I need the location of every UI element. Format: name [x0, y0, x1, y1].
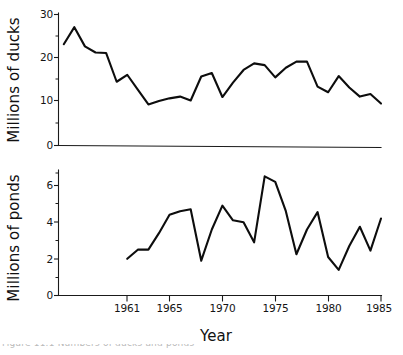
- duck-pond-figure: Millions of ducks 30 20 10 0: [0, 0, 403, 355]
- ponds-y-axis-title: Millions of ponds: [5, 174, 23, 301]
- ponds-ytick-6: 6: [47, 179, 54, 191]
- ducks-x-axis-spine: [59, 146, 382, 148]
- figure-container: Millions of ducks 30 20 10 0: [0, 0, 403, 355]
- ponds-y-tick-labels: 6 4 2 0: [47, 179, 54, 301]
- ducks-y-axis-title: Millions of ducks: [5, 17, 23, 143]
- xtick-1970: 1970: [210, 302, 236, 314]
- xtick-1975: 1975: [263, 302, 289, 314]
- ponds-y-ticks: [54, 173, 59, 296]
- ducks-y-ticks: [54, 15, 59, 146]
- ducks-y-tick-labels: 30 20 10 0: [40, 8, 53, 151]
- xtick-1985: 1985: [366, 302, 392, 314]
- ducks-ytick-0: 0: [47, 139, 53, 151]
- ponds-ytick-0: 0: [47, 289, 53, 301]
- ducks-data-line: [64, 27, 381, 104]
- ducks-ytick-30: 30: [40, 8, 53, 20]
- ponds-ytick-4: 4: [47, 216, 54, 228]
- ponds-panel: Millions of ponds 6 4 2 0: [5, 170, 392, 314]
- ponds-ytick-2: 2: [47, 253, 53, 265]
- xtick-1965: 1965: [157, 302, 183, 314]
- ducks-ytick-10: 10: [40, 94, 53, 106]
- shared-x-ticks: [127, 296, 381, 302]
- figure-caption: Figure 11.1 Numbers of ducks and ponds: [2, 344, 194, 348]
- xtick-1961: 1961: [114, 302, 140, 314]
- shared-x-tick-labels: 1961 1965 1970 1975 1980 1985: [114, 302, 392, 314]
- ducks-ytick-20: 20: [40, 51, 53, 63]
- figure-caption-strip: Figure 11.1 Numbers of ducks and ponds: [0, 344, 403, 355]
- xtick-1980: 1980: [316, 302, 342, 314]
- ducks-panel: Millions of ducks 30 20 10 0: [5, 8, 381, 151]
- x-axis-title: Year: [199, 327, 233, 345]
- ponds-data-line: [127, 176, 381, 269]
